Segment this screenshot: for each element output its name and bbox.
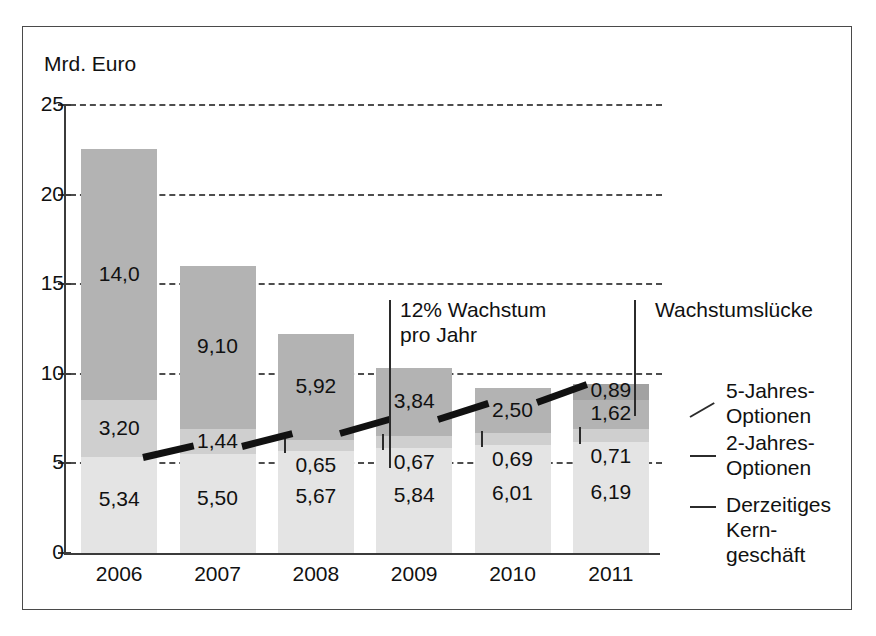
- figure-border: [22, 26, 852, 610]
- chart-figure: · · · · · · · · · Mrd. Euro 05101520255,…: [0, 0, 876, 636]
- scan-artifact: · · · · · · · · ·: [0, 0, 876, 22]
- scan-artifact-text: · · · · · · · · ·: [120, 0, 213, 8]
